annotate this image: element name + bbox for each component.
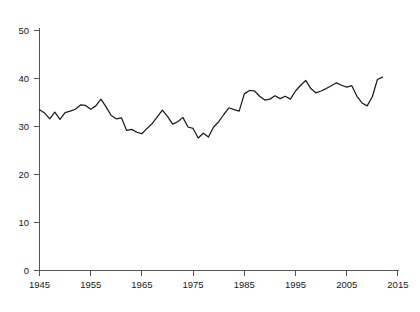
x-tick-label-1975: 1975 bbox=[183, 279, 204, 290]
chart-container: 50 40 30 20 10 0 1945 1955 1965 1975 198… bbox=[0, 0, 420, 312]
x-tick-label-1965: 1965 bbox=[131, 279, 152, 290]
y-tick-label-20: 20 bbox=[18, 169, 29, 180]
x-tick-label-1945: 1945 bbox=[29, 279, 50, 290]
x-tick-label-2005: 2005 bbox=[336, 279, 357, 290]
x-axis-ticks: 1945 1955 1965 1975 1985 1995 2005 2015 bbox=[29, 271, 409, 291]
x-tick-label-2015: 2015 bbox=[387, 279, 408, 290]
y-tick-label-0: 0 bbox=[24, 265, 29, 276]
y-tick-label-40: 40 bbox=[18, 73, 29, 84]
y-tick-label-10: 10 bbox=[18, 217, 29, 228]
axes-group bbox=[40, 28, 400, 271]
y-tick-label-30: 30 bbox=[18, 121, 29, 132]
data-series-line bbox=[40, 77, 383, 138]
y-tick-label-50: 50 bbox=[18, 25, 29, 36]
y-axis-ticks: 50 40 30 20 10 0 bbox=[18, 25, 39, 276]
x-tick-label-1995: 1995 bbox=[285, 279, 306, 290]
x-tick-label-1985: 1985 bbox=[234, 279, 255, 290]
line-chart: 50 40 30 20 10 0 1945 1955 1965 1975 198… bbox=[0, 0, 420, 312]
x-tick-label-1955: 1955 bbox=[80, 279, 101, 290]
